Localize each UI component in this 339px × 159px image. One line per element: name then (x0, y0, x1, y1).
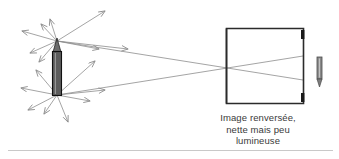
caption-line-3: lumineuse (196, 135, 320, 147)
pencil-object (53, 38, 62, 96)
diagram-canvas: Image renversée, nette mais peu lumineus… (0, 0, 339, 159)
ray-tip-up-right (57, 11, 105, 41)
ray-fan-from-base (21, 61, 105, 122)
inverted-pencil-tip (317, 79, 322, 87)
ray-base-left-down (28, 95, 57, 110)
screen-corner-mark-bottom (301, 93, 304, 102)
caption-line-1: Image renversée, (196, 112, 320, 124)
ray-fan-from-tip (22, 11, 128, 62)
inverted-pencil-image (317, 57, 322, 87)
image-caption: Image renversée, nette mais peu lumineus… (196, 112, 320, 147)
screen-corner-mark-top (301, 30, 304, 39)
footer-divider (8, 150, 333, 151)
ray-base-down (57, 95, 68, 122)
principal-rays (57, 41, 303, 95)
caption-line-2: nette mais peu (196, 124, 320, 136)
pencil-body (53, 52, 62, 96)
principal-ray-tip-to-screen (57, 41, 303, 80)
ray-base-down-left-steep (44, 95, 57, 114)
